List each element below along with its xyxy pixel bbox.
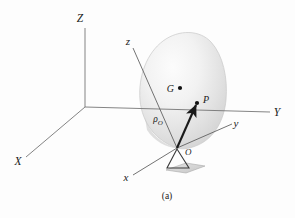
point-marker-G bbox=[178, 86, 182, 90]
point-label-P: P bbox=[202, 94, 209, 105]
axis-label-z: z bbox=[125, 35, 131, 47]
figure-container: Z X Y z x y ρO G P O (a) bbox=[0, 0, 295, 218]
rigid-body-diagram: Z X Y z x y ρO G P O (a) bbox=[0, 0, 295, 218]
blob-surface bbox=[140, 32, 227, 148]
rho-subscript: O bbox=[158, 119, 163, 127]
axis-label-Y: Y bbox=[274, 106, 282, 118]
axis-label-X: X bbox=[13, 155, 22, 167]
origin-label-O: O bbox=[185, 147, 192, 157]
axis-label-Z: Z bbox=[77, 12, 84, 24]
point-marker-P bbox=[195, 101, 199, 105]
axis-label-y: y bbox=[233, 117, 239, 129]
axis-line-X bbox=[26, 107, 85, 157]
rigid-body-blob bbox=[140, 32, 227, 148]
point-label-G: G bbox=[167, 83, 174, 94]
figure-caption: (a) bbox=[162, 191, 173, 202]
axis-label-x: x bbox=[123, 171, 129, 183]
